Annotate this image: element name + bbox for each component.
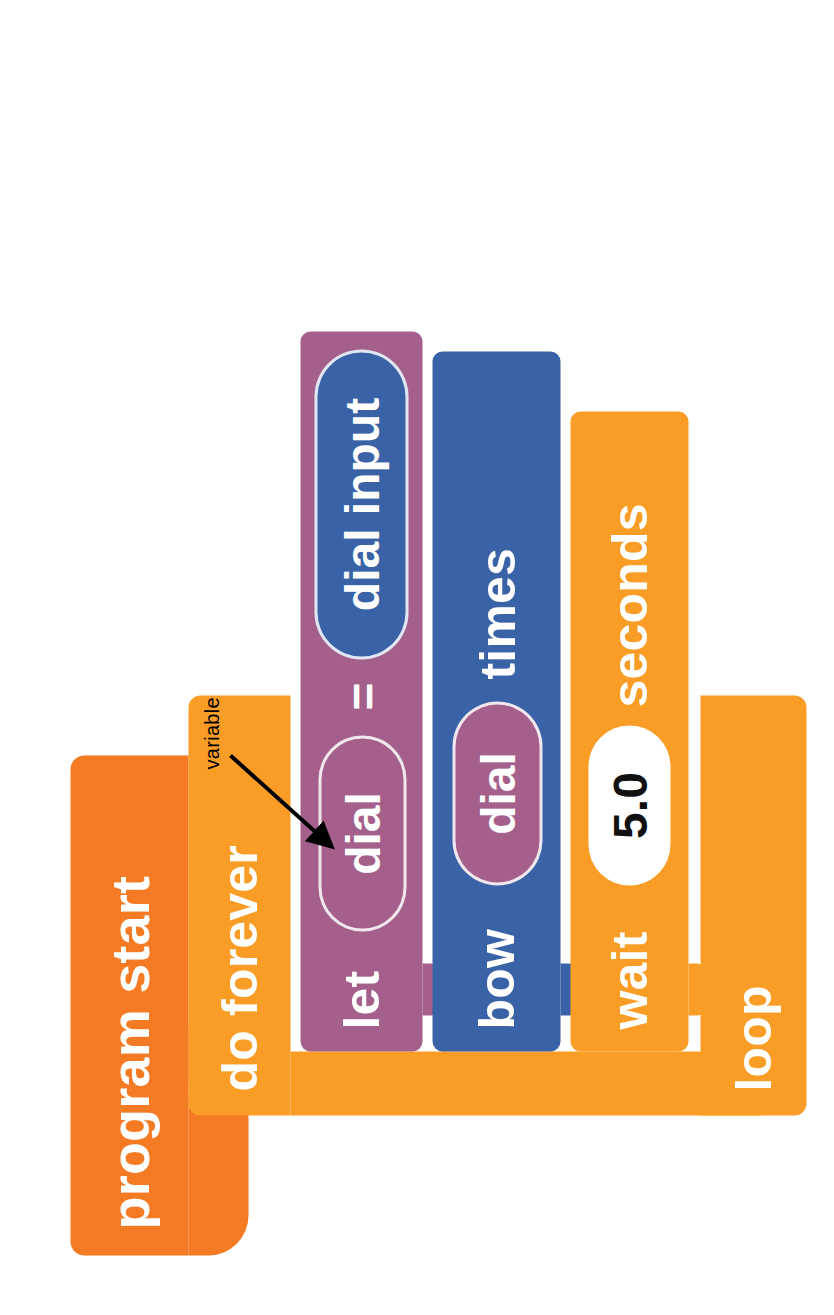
block-script-canvas: program start do forever let dial = dial… <box>0 0 834 1315</box>
rotated-canvas: program start do forever let dial = dial… <box>0 0 834 1315</box>
diagram-stage: program start do forever let dial = dial… <box>0 0 834 1315</box>
annotation-variable-label: variable <box>200 697 223 769</box>
annotation-arrow-icon <box>0 0 834 1315</box>
